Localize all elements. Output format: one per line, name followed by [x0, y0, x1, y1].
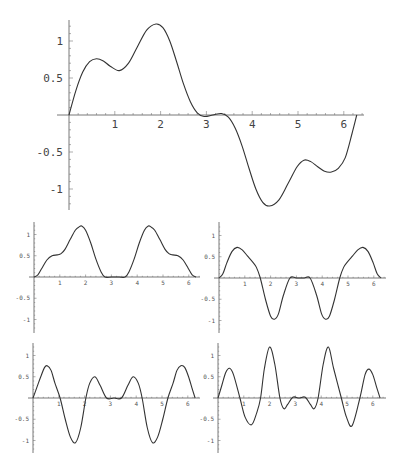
x-tick-label: 1 — [243, 280, 247, 287]
y-tick-label: 1 — [56, 35, 63, 48]
x-tick-label: 5 — [346, 280, 350, 287]
x-tick-label: 6 — [372, 280, 376, 287]
y-tick-label: 1 — [211, 232, 215, 239]
chart-canvas: 123456-1-0.50.51 123456-1-0.50.51 123456… — [0, 0, 403, 471]
x-tick-label: 4 — [134, 400, 138, 407]
main-plot: 123456-1-0.50.51 — [37, 20, 365, 210]
y-tick-label: -1 — [208, 317, 216, 324]
y-tick-label: -0.5 — [37, 146, 64, 159]
x-tick-label: 2 — [84, 279, 88, 286]
x-tick-label: 3 — [294, 400, 298, 407]
x-tick-label: 2 — [268, 400, 272, 407]
x-tick-label: 1 — [242, 400, 246, 407]
data-curve — [34, 226, 196, 278]
x-tick-label: 3 — [109, 400, 113, 407]
x-tick-label: 2 — [157, 118, 164, 131]
y-tick-label: 0.5 — [19, 252, 30, 259]
y-tick-label: -0.5 — [16, 294, 31, 301]
x-tick-label: 2 — [269, 280, 273, 287]
y-tick-label: 0.5 — [204, 253, 215, 260]
y-tick-label: 0.5 — [203, 373, 214, 380]
x-tick-label: 6 — [340, 118, 347, 131]
data-curve — [218, 347, 380, 426]
x-tick-label: 6 — [371, 400, 375, 407]
panel-top-left: 123456-1-0.50.51 — [16, 222, 200, 333]
panel-bottom-right: 123456-1-0.50.51 — [200, 343, 386, 453]
y-tick-label: -0.5 — [200, 415, 215, 422]
y-tick-label: -0.5 — [201, 295, 216, 302]
x-tick-label: 3 — [110, 279, 114, 286]
y-tick-label: 0.5 — [18, 373, 29, 380]
x-tick-label: 4 — [320, 280, 324, 287]
y-tick-label: -1 — [22, 437, 30, 444]
y-tick-label: -1 — [50, 183, 63, 196]
x-tick-label: 1 — [111, 118, 118, 131]
x-tick-label: 5 — [161, 279, 165, 286]
y-tick-label: -0.5 — [15, 415, 30, 422]
x-tick-label: 6 — [186, 400, 190, 407]
x-tick-label: 5 — [160, 400, 164, 407]
x-tick-label: 3 — [295, 280, 299, 287]
x-tick-label: 5 — [295, 118, 302, 131]
panel-top-right: 123456-1-0.50.51 — [201, 222, 386, 333]
y-tick-label: 0.5 — [43, 72, 63, 85]
x-tick-label: 4 — [249, 118, 256, 131]
x-tick-label: 4 — [135, 279, 139, 286]
y-tick-label: 1 — [26, 231, 30, 238]
x-tick-label: 4 — [319, 400, 323, 407]
x-tick-label: 3 — [203, 118, 210, 131]
y-tick-label: -1 — [207, 437, 215, 444]
y-tick-label: 1 — [25, 352, 29, 359]
y-tick-label: -1 — [23, 316, 31, 323]
x-tick-label: 1 — [58, 279, 62, 286]
x-tick-label: 5 — [345, 400, 349, 407]
y-tick-label: 1 — [210, 352, 214, 359]
panel-bottom-left: 123456-1-0.50.51 — [15, 343, 200, 453]
x-tick-label: 6 — [187, 279, 191, 286]
